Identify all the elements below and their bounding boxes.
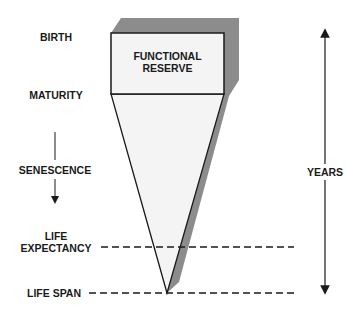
box-label-line1: FUNCTIONAL: [111, 50, 224, 62]
decline-triangle: [111, 94, 224, 293]
label-life-expectancy: LIFE EXPECTANCY: [14, 230, 98, 254]
label-senescence: SENESCENCE: [5, 164, 105, 176]
diagram-canvas: [0, 0, 358, 312]
label-birth: BIRTH: [20, 31, 92, 43]
label-life-span: LIFE SPAN: [22, 287, 86, 299]
box-label-line2: RESERVE: [111, 62, 224, 74]
life-expectancy-line2: EXPECTANCY: [14, 242, 98, 254]
life-expectancy-line1: LIFE: [14, 230, 98, 242]
label-maturity: MATURITY: [14, 89, 98, 101]
label-years: YEARS: [300, 166, 350, 178]
box-label: FUNCTIONAL RESERVE: [111, 50, 224, 74]
